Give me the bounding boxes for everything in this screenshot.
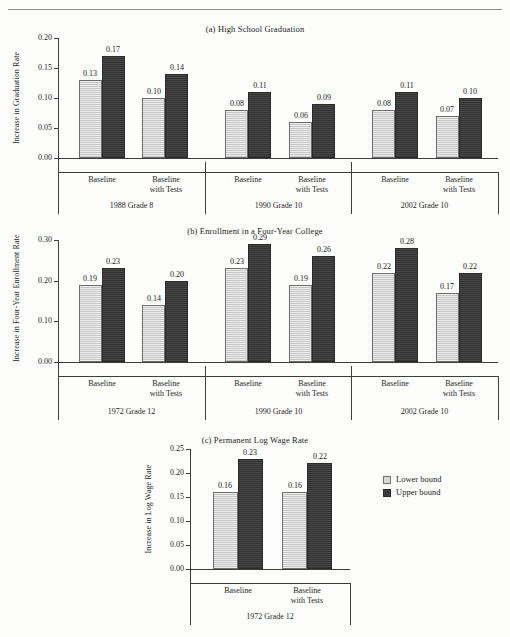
y-axis-tick [186,521,190,522]
category-band-top-line [58,376,498,377]
bar-upper-bound [395,92,418,158]
bar-value-label: 0.28 [385,237,429,246]
bar-upper-bound [312,256,335,362]
bar-lower-bound [282,492,307,569]
bar-lower-bound [289,285,312,362]
bar-lower-bound [225,268,248,362]
bar-value-label: 0.11 [385,81,429,90]
legend-swatch-upper-icon [383,489,391,497]
bar-upper-bound [165,281,188,362]
panel-c-title: (c) Permanent Log Wage Rate [0,435,510,445]
y-axis-tick-label: 0.20 [20,276,52,285]
bar-upper-bound [102,268,125,362]
category-label: Baselinewith Tests [128,379,204,398]
bar-upper-bound [165,74,188,158]
bar-value-label: 0.23 [226,448,274,457]
bar-value-label: 0.23 [91,257,135,266]
category-label: Baselinewith Tests [421,379,497,398]
category-label: Baselinewith Tests [274,379,350,398]
bar-value-label: 0.14 [155,63,199,72]
y-axis-label: Increase in Four-Year Enrollment Rate [12,240,21,362]
bar-upper-bound [238,459,263,569]
bar-upper-bound [102,56,125,158]
x-axis-baseline [58,362,498,363]
y-axis-tick-label: 0.25 [152,444,184,453]
category-label: Baselinewith Tests [421,175,497,194]
y-axis-tick-label: 0.10 [152,516,184,525]
chart-panel-a: (a) High School Graduation 0.000.050.100… [0,24,510,224]
y-axis-line [58,240,59,420]
bar-upper-bound [312,104,335,158]
y-axis-tick [186,497,190,498]
y-axis-tick-label: 0.00 [20,357,52,366]
bar-lower-bound [436,293,459,362]
bar-value-label: 0.09 [302,93,346,102]
y-axis-label: Increase in Log Wage Rate [144,449,153,569]
group-label: 2002 Grade 10 [351,201,498,210]
y-axis-tick-label: 0.20 [20,33,52,42]
category-label: Baselinewith Tests [274,175,350,194]
panel-a-title: (a) High School Graduation [0,24,510,34]
panel-a-plot-area: 0.000.050.100.150.200.130.17Baseline0.10… [0,34,510,216]
bar-value-label: 0.11 [238,81,282,90]
legend-label: Lower bound [396,474,442,484]
bar-upper-bound [459,273,482,362]
group-label: 2002 Grade 10 [351,407,498,416]
y-axis-tick-label: 0.15 [152,492,184,501]
bar-value-label: 0.20 [155,270,199,279]
plot-right-edge [350,583,351,625]
category-band-top-line [58,172,498,173]
y-axis-tick [54,281,58,282]
y-axis-tick-label: 0.00 [20,153,52,162]
bar-lower-bound [289,122,312,158]
header-rule [8,9,502,10]
group-label: 1990 Grade 10 [205,407,352,416]
bar-lower-bound [436,116,459,158]
group-label: 1988 Grade 8 [58,201,205,210]
y-axis-tick-label: 0.00 [152,564,184,573]
bar-value-label: 0.10 [448,87,492,96]
y-axis-tick [54,68,58,69]
group-label: 1972 Grade 12 [58,407,205,416]
bar-lower-bound [142,98,165,158]
y-axis-tick-label: 0.15 [20,63,52,72]
legend-swatch-lower-icon [383,476,391,484]
x-axis-baseline [58,158,498,159]
bar-lower-bound [225,110,248,158]
y-axis-tick [54,321,58,322]
y-axis-tick [186,545,190,546]
bar-upper-bound [459,98,482,158]
bar-lower-bound [79,285,102,362]
bar-upper-bound [248,244,271,362]
bar-lower-bound [372,110,395,158]
bar-upper-bound [395,248,418,362]
bar-value-label: 0.29 [238,233,282,242]
y-axis-line [190,449,191,625]
y-axis-line [58,38,59,214]
y-axis-tick [186,473,190,474]
plot-right-edge [498,376,499,420]
chart-panel-b: (b) Enrollment in a Four-Year College 0.… [0,226,510,432]
chart-panel-c: (c) Permanent Log Wage Rate 0.000.050.10… [0,435,510,635]
category-band-top-line [190,583,350,584]
bar-lower-bound [79,80,102,158]
bar-value-label: 0.22 [448,262,492,271]
panel-c-plot-area: 0.000.050.100.150.200.250.160.23Baseline… [0,445,510,627]
y-axis-label: Increase in Graduation Rate [12,38,21,158]
y-axis-tick [54,98,58,99]
y-axis-tick [186,449,190,450]
bar-value-label: 0.17 [91,45,135,54]
panel-b-plot-area: 0.000.100.200.300.190.23Baseline0.140.20… [0,236,510,424]
category-label: Baselinewith Tests [266,586,348,605]
plot-right-edge [498,172,499,214]
bar-lower-bound [142,305,165,362]
y-axis-tick-label: 0.30 [20,235,52,244]
y-axis-tick-label: 0.05 [152,540,184,549]
y-axis-tick-label: 0.10 [20,316,52,325]
bar-value-label: 0.26 [302,245,346,254]
bar-upper-bound [248,92,271,158]
running-header [0,0,510,12]
y-axis-tick [54,128,58,129]
x-axis-baseline [190,569,350,570]
group-label: 1990 Grade 10 [205,201,352,210]
